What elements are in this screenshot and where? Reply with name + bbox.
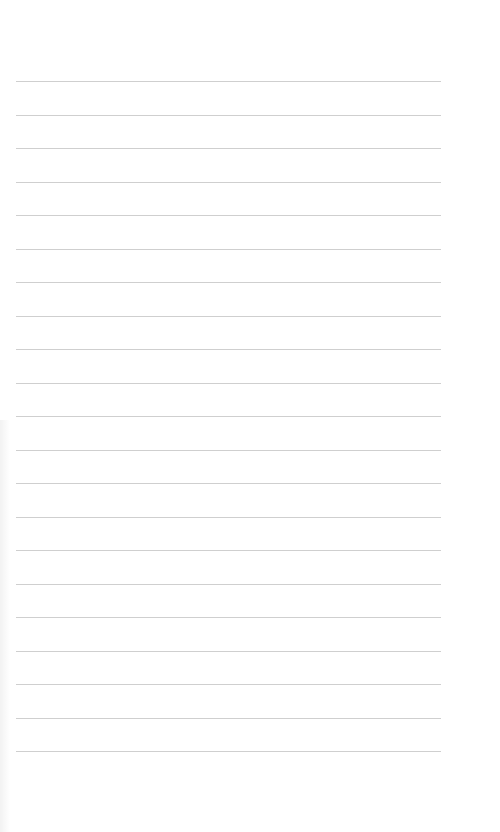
ruled-line: [16, 349, 441, 350]
ruled-line: [16, 383, 441, 384]
ruled-line: [16, 282, 441, 283]
ruled-line: [16, 148, 441, 149]
ruled-line: [16, 416, 441, 417]
ruled-line: [16, 182, 441, 183]
ruled-line: [16, 215, 441, 216]
page-edge-shadow: [0, 420, 10, 832]
ruled-line: [16, 316, 441, 317]
ruled-line: [16, 550, 441, 551]
ruled-line: [16, 249, 441, 250]
ruled-line: [16, 617, 441, 618]
ruled-line: [16, 115, 441, 116]
ruled-line: [16, 684, 441, 685]
ruled-line: [16, 584, 441, 585]
notebook-page: [0, 0, 500, 832]
ruled-line: [16, 81, 441, 82]
ruled-line: [16, 483, 441, 484]
ruled-line: [16, 751, 441, 752]
ruled-line: [16, 718, 441, 719]
ruled-line: [16, 651, 441, 652]
ruled-line: [16, 450, 441, 451]
ruled-line: [16, 517, 441, 518]
